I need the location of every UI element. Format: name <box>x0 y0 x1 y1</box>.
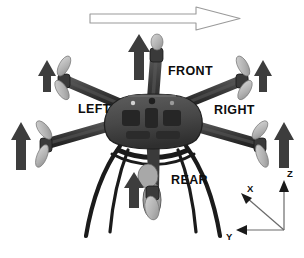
axis-label-y: Y <box>226 232 232 242</box>
direction-label-rear: REAR <box>171 174 208 187</box>
body-coordinate-axes <box>0 0 304 258</box>
direction-label-right: RIGHT <box>214 104 255 117</box>
axis-x-line <box>247 198 284 230</box>
axis-z-arrowhead <box>279 180 289 192</box>
direction-label-left: LEFT <box>78 103 111 116</box>
hexacopter-orientation-figure: FRONT LEFT RIGHT REAR X Y Z <box>0 0 304 258</box>
axis-label-x: X <box>247 184 253 194</box>
axis-label-z: Z <box>287 169 293 179</box>
axis-y-arrowhead <box>236 225 247 235</box>
axis-x-arrowhead <box>241 193 252 204</box>
direction-label-front: FRONT <box>168 65 213 78</box>
